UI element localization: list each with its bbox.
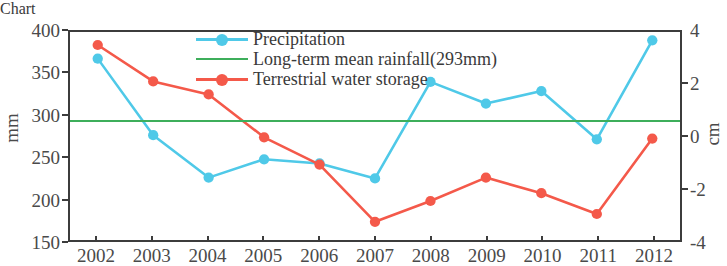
data-point <box>481 98 491 108</box>
right-axis-tick-label: -4 <box>690 233 706 252</box>
data-point <box>203 172 213 182</box>
data-point <box>259 154 269 164</box>
left-axis-tick-label: 350 <box>4 63 60 82</box>
data-point <box>148 130 158 140</box>
right-axis-label: cm <box>702 114 724 154</box>
x-axis-tick-mark <box>95 236 97 242</box>
x-axis-tick-mark <box>318 236 320 242</box>
x-axis-tick-label: 2011 <box>568 246 628 265</box>
x-axis-tick-mark <box>374 236 376 242</box>
x-axis-tick-label: 2003 <box>122 246 182 265</box>
x-axis-tick-label: 2008 <box>401 246 461 265</box>
right-axis-tick-label: 4 <box>690 21 700 40</box>
right-axis-tick-label: -2 <box>690 180 706 199</box>
x-axis-tick-label: 2009 <box>457 246 517 265</box>
data-point <box>536 86 546 96</box>
x-axis-tick-mark <box>262 236 264 242</box>
x-axis-tick-label: 2002 <box>66 246 126 265</box>
x-axis-tick-label: 2006 <box>289 246 349 265</box>
data-point <box>370 173 380 183</box>
data-point <box>425 196 435 206</box>
data-point <box>592 134 602 144</box>
data-point <box>592 209 602 219</box>
x-axis-tick-mark <box>151 236 153 242</box>
x-axis-tick-label: 2010 <box>512 246 572 265</box>
left-axis-tick-mark <box>62 241 68 243</box>
legend-label: Precipitation <box>253 30 345 49</box>
x-axis-tick-mark <box>430 236 432 242</box>
left-axis-tick-label: 150 <box>4 233 60 252</box>
left-axis-tick-mark <box>62 114 68 116</box>
x-axis-tick-label: 2007 <box>345 246 405 265</box>
right-axis-tick-mark <box>682 82 688 84</box>
data-point <box>647 133 657 143</box>
x-axis-tick-mark <box>653 236 655 242</box>
x-axis-tick-mark <box>207 236 209 242</box>
legend-item[interactable]: Precipitation <box>196 30 497 49</box>
left-axis-tick-label: 200 <box>4 191 60 210</box>
right-axis-tick-label: 2 <box>690 74 700 93</box>
data-point <box>314 159 324 169</box>
data-point <box>93 54 103 64</box>
data-point <box>259 132 269 142</box>
legend-label: Long-term mean rainfall(293mm) <box>253 50 497 69</box>
left-axis-tick-mark <box>62 199 68 201</box>
right-axis-tick-mark <box>682 135 688 137</box>
left-axis-tick-mark <box>62 156 68 158</box>
chart-figure: 400350300250200150 420-2-4 mm cm Precipi… <box>0 18 727 266</box>
x-axis-tick-mark <box>486 236 488 242</box>
data-point <box>148 76 158 86</box>
legend-label: Terrestrial water storage <box>253 70 428 89</box>
x-axis-tick-mark <box>541 236 543 242</box>
right-axis-tick-label: 0 <box>690 127 700 146</box>
legend-swatch <box>196 70 248 89</box>
data-point <box>647 35 657 45</box>
legend-swatch <box>196 50 248 69</box>
data-point <box>203 89 213 99</box>
x-axis-tick-label: 2004 <box>178 246 238 265</box>
legend-marker-icon <box>216 74 228 86</box>
x-axis-tick-label: 2012 <box>624 246 684 265</box>
data-point <box>93 40 103 50</box>
legend-marker-icon <box>216 34 228 46</box>
data-point <box>370 217 380 227</box>
left-axis-tick-mark <box>62 29 68 31</box>
left-axis-tick-label: 400 <box>4 21 60 40</box>
left-axis-tick-mark <box>62 71 68 73</box>
x-axis-tick-label: 2005 <box>233 246 293 265</box>
x-axis-tick-mark <box>597 236 599 242</box>
left-axis-label: mm <box>1 103 23 153</box>
legend-item[interactable]: Long-term mean rainfall(293mm) <box>196 50 497 69</box>
data-point <box>536 188 546 198</box>
chart-legend: PrecipitationLong-term mean rainfall(293… <box>196 30 497 89</box>
legend-item[interactable]: Terrestrial water storage <box>196 70 497 89</box>
legend-line-icon <box>196 58 248 60</box>
right-axis-tick-mark <box>682 188 688 190</box>
data-point <box>481 172 491 182</box>
legend-swatch <box>196 30 248 49</box>
